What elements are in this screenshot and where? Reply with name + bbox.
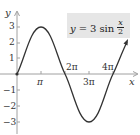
equation-coefficient: 3 [90, 23, 96, 34]
x-tick-label-4pi: 4π [102, 63, 114, 72]
y-tick-label-2: 2 [9, 38, 15, 47]
y-tick-label-neg1: −1 [3, 86, 16, 95]
y-tick-label-3: 3 [9, 22, 15, 31]
sine-graph-figure: y x 3 2 1 −1 −2 −3 π 2π 3π 4π y = 3 sin … [0, 0, 140, 135]
curve-arrow-icon [124, 39, 129, 46]
equation: y = 3 sin x 2 [70, 20, 124, 37]
x-axis-label: x [129, 77, 135, 87]
y-tick-label-1: 1 [9, 54, 15, 63]
equation-fraction: x 2 [117, 19, 124, 36]
y-tick-label-neg2: −2 [3, 102, 16, 111]
y-tick-label-neg3: −3 [3, 118, 16, 127]
equation-lhs: y [70, 23, 76, 34]
equation-label-box: y = 3 sin x 2 [67, 13, 130, 38]
equation-equals: = [79, 23, 87, 34]
x-tick-label-pi: π [37, 78, 43, 87]
x-tick-label-3pi: 3π [83, 78, 95, 87]
origin-point [15, 72, 18, 75]
equation-function: sin [99, 23, 114, 34]
x-tick-label-2pi: 2π [66, 63, 78, 72]
fraction-denominator: 2 [118, 28, 123, 36]
y-axis-label: y [5, 8, 11, 18]
